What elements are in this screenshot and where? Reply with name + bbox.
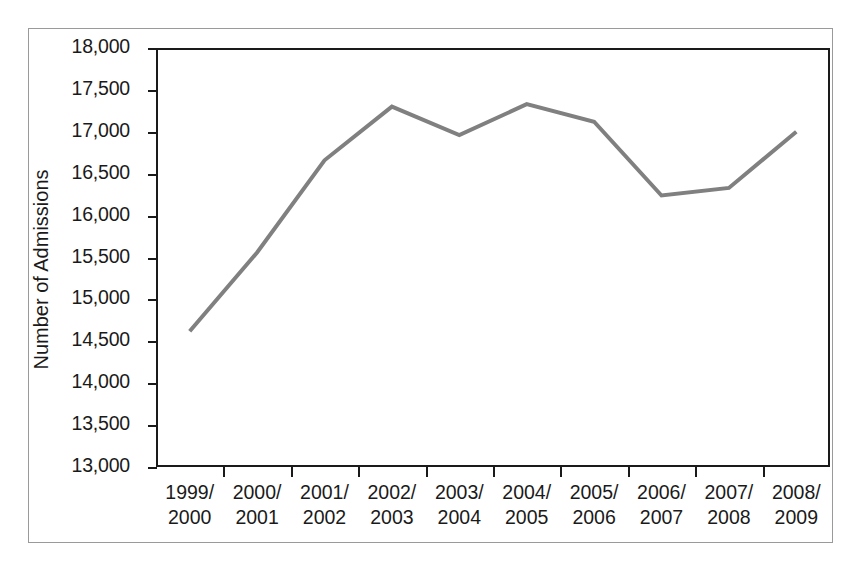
x-axis-tick-label: 2001/2002 — [291, 480, 358, 530]
x-axis-tick-label-line: 2003/ — [426, 480, 493, 505]
x-axis-tick-label: 2003/2004 — [426, 480, 493, 530]
x-axis-tick-label-line: 2003 — [358, 505, 425, 530]
x-axis-tick-label-line: 2005/ — [560, 480, 627, 505]
x-axis-tick-label: 2005/2006 — [560, 480, 627, 530]
x-axis-tick-label-line: 2008 — [695, 505, 762, 530]
x-axis-tick-mark — [560, 467, 562, 477]
x-axis-tick-label: 2007/2008 — [695, 480, 762, 530]
x-axis-tick-label-line: 2004 — [426, 505, 493, 530]
x-axis-tick-mark — [223, 467, 225, 477]
x-axis-tick-label-line: 2001 — [223, 505, 290, 530]
x-axis-tick-label: 2002/2003 — [358, 480, 425, 530]
x-axis-tick-label: 2006/2007 — [628, 480, 695, 530]
x-axis-tick-label-line: 2008/ — [763, 480, 830, 505]
y-axis-tick-label: 14,500 — [72, 328, 130, 351]
y-axis-tick-label: 13,500 — [72, 412, 130, 435]
y-axis-tick-mark — [148, 467, 157, 469]
x-axis-tick-label-line: 2002/ — [358, 480, 425, 505]
chart-figure: 18,00017,50017,00016,50016,00015,50015,0… — [0, 0, 854, 563]
x-axis-tick-label-line: 2007/ — [695, 480, 762, 505]
x-axis-tick-label-line: 2002 — [291, 505, 358, 530]
x-axis-tick-label-line: 2000/ — [223, 480, 290, 505]
y-axis-title: Number of Admissions — [30, 155, 53, 385]
x-axis-tick-mark — [695, 467, 697, 477]
y-axis-tick-label: 16,500 — [72, 161, 130, 184]
x-axis-tick-label-line: 1999/ — [156, 480, 223, 505]
admissions-line — [190, 104, 797, 331]
x-axis-tick-label-line: 2006 — [560, 505, 627, 530]
y-axis-tick-label: 17,500 — [72, 77, 130, 100]
y-axis-tick-label: 14,000 — [72, 370, 130, 393]
x-axis-tick-label: 1999/2000 — [156, 480, 223, 530]
x-axis-tick-label: 2000/2001 — [223, 480, 290, 530]
x-axis-tick-mark — [291, 467, 293, 477]
x-axis-tick-label-line: 2006/ — [628, 480, 695, 505]
y-axis-tick-labels: 18,00017,50017,00016,50016,00015,50015,0… — [0, 0, 148, 563]
x-axis-tick-mark — [763, 467, 765, 477]
y-axis-tick-label: 15,500 — [72, 245, 130, 268]
y-axis-tick-label: 18,000 — [72, 35, 130, 58]
x-axis-tick-mark — [358, 467, 360, 477]
line-series-svg — [156, 48, 830, 467]
x-axis-tick-label: 2008/2009 — [763, 480, 830, 530]
x-axis-tick-label: 2004/2005 — [493, 480, 560, 530]
x-axis-tick-mark — [628, 467, 630, 477]
x-axis-tick-label-line: 2001/ — [291, 480, 358, 505]
x-axis-tick-label-line: 2000 — [156, 505, 223, 530]
y-axis-tick-label: 13,000 — [72, 454, 130, 477]
x-axis-tick-label-line: 2004/ — [493, 480, 560, 505]
y-axis-tick-label: 16,000 — [72, 203, 130, 226]
x-axis-tick-mark — [426, 467, 428, 477]
x-axis-tick-label-line: 2009 — [763, 505, 830, 530]
y-axis-tick-label: 15,000 — [72, 286, 130, 309]
x-axis-tick-label-line: 2007 — [628, 505, 695, 530]
y-axis-tick-label: 17,000 — [72, 119, 130, 142]
x-axis-tick-mark — [493, 467, 495, 477]
x-axis-tick-label-line: 2005 — [493, 505, 560, 530]
